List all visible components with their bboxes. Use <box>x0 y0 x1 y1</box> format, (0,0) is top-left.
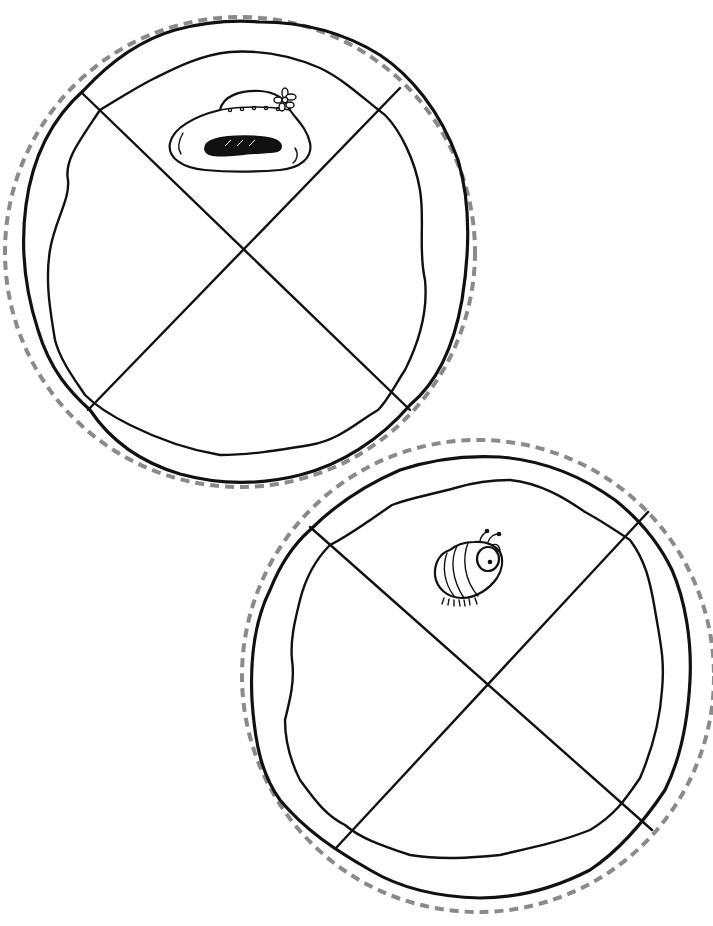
crust-outer-bottom-pie <box>252 457 691 898</box>
bottom-pie <box>242 440 713 912</box>
worksheet-canvas <box>0 0 713 926</box>
crust-inner-bottom-pie <box>285 480 663 858</box>
slice-divider-1-bottom-pie <box>310 527 652 830</box>
hat-icon <box>170 88 311 172</box>
bug-icon <box>435 529 502 606</box>
top-pie <box>5 17 475 487</box>
